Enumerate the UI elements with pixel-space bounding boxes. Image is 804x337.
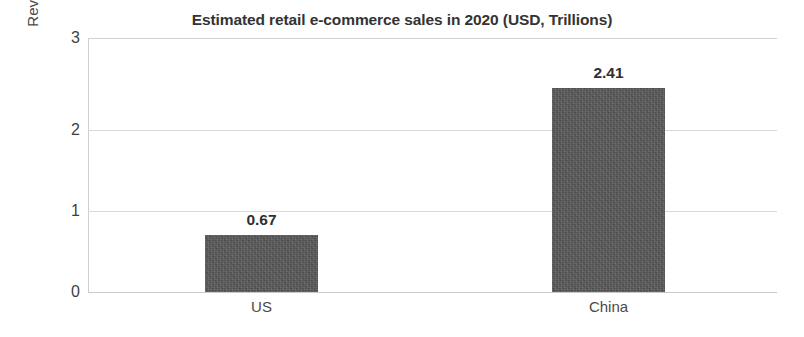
y-tick-label-2: 2 bbox=[54, 121, 80, 139]
y-axis-tick-labels: 3 2 1 0 bbox=[46, 38, 80, 292]
gridline-0 bbox=[88, 292, 777, 293]
y-tick-label-0: 0 bbox=[54, 283, 80, 301]
x-tick-label-us: US bbox=[251, 298, 272, 315]
bar-china[interactable] bbox=[552, 88, 665, 292]
chart-title: Estimated retail e-commerce sales in 202… bbox=[0, 11, 804, 29]
y-tick-label-1: 1 bbox=[54, 202, 80, 220]
bar-value-china: 2.41 bbox=[593, 64, 623, 82]
y-axis-title: Revenue, USD, Trillions bbox=[14, 0, 50, 74]
plot-area: 0.67 2.41 bbox=[88, 38, 777, 292]
bar-value-us: 0.67 bbox=[246, 211, 276, 229]
gridline-2 bbox=[88, 130, 777, 131]
bar-us[interactable] bbox=[205, 235, 318, 292]
y-axis-title-text: Revenue, USD, Trillions bbox=[24, 0, 41, 27]
gridline-1 bbox=[88, 211, 777, 212]
gridline-3 bbox=[88, 38, 777, 39]
bar-chart: Estimated retail e-commerce sales in 202… bbox=[0, 0, 804, 337]
x-axis-tick-labels: US China bbox=[88, 298, 777, 324]
x-tick-label-china: China bbox=[589, 298, 628, 315]
y-tick-label-3: 3 bbox=[54, 29, 80, 47]
